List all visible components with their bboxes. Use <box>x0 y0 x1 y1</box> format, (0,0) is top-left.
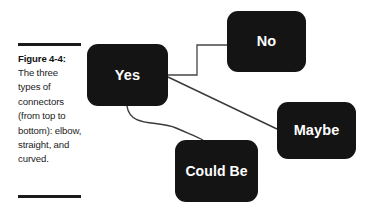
connector-diagram: Yes No Maybe Could Be <box>0 0 379 217</box>
node-yes-label: Yes <box>115 68 140 83</box>
figure-page: Figure 4-4: The three types of connector… <box>0 0 379 217</box>
node-no-label: No <box>257 34 277 49</box>
node-yes[interactable]: Yes <box>87 44 168 106</box>
node-no[interactable]: No <box>227 11 306 72</box>
node-maybe-label: Maybe <box>294 123 340 138</box>
curved-connector[interactable] <box>127 106 203 140</box>
node-could-be[interactable]: Could Be <box>175 140 258 202</box>
elbow-connector[interactable] <box>168 45 227 75</box>
straight-connector[interactable] <box>168 77 277 129</box>
node-maybe[interactable]: Maybe <box>277 102 356 159</box>
node-could-be-label: Could Be <box>185 164 247 178</box>
